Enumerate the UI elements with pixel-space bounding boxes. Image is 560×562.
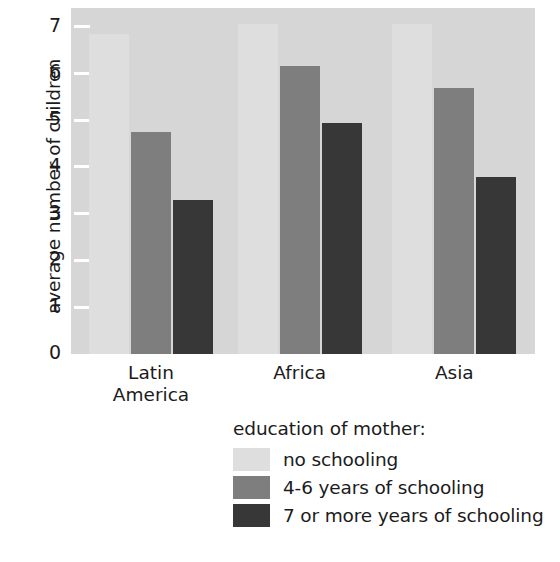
bar (434, 88, 474, 355)
bar-chart-figure: average number of children 01234567 Lati… (0, 0, 560, 562)
legend-swatch (233, 504, 270, 527)
y-axis-tick-label: 4 (23, 156, 61, 175)
x-axis-category: Africa (215, 362, 385, 384)
x-axis-category-label: Asia (435, 362, 474, 383)
y-axis-tick-label: 7 (23, 16, 61, 35)
legend-item: 7 or more years of schooling (233, 502, 560, 528)
legend-swatch (233, 448, 270, 471)
y-axis-tick (74, 119, 90, 122)
x-axis-category: LatinAmerica (66, 362, 236, 406)
legend: education of mother: no schooling4-6 yea… (233, 418, 560, 530)
y-axis-tick-label: 6 (23, 62, 61, 81)
y-axis-tick-label: 5 (23, 109, 61, 128)
y-axis-tick (74, 212, 90, 215)
bar (173, 200, 213, 354)
legend-label: no schooling (283, 449, 398, 470)
y-axis-tick (74, 165, 90, 168)
x-axis-category: Asia (369, 362, 539, 384)
bar (392, 24, 432, 354)
x-axis-category-label: Africa (273, 362, 326, 383)
plot-area (71, 8, 535, 354)
y-axis-tick-label: 1 (23, 296, 61, 315)
legend-rows: no schooling4-6 years of schooling7 or m… (233, 446, 560, 528)
legend-item: 4-6 years of schooling (233, 474, 560, 500)
x-axis-category-label-line2: America (66, 384, 236, 406)
y-axis-tick (74, 306, 90, 309)
bar (131, 132, 171, 354)
y-axis-tick (74, 259, 90, 262)
x-axis-category-label: Latin (128, 362, 174, 383)
y-axis-tick (74, 25, 90, 28)
y-axis-tick-label: 3 (23, 203, 61, 222)
bar (280, 66, 320, 354)
plot-inner (71, 8, 535, 354)
legend-swatch (233, 476, 270, 499)
y-axis-tick-label: 2 (23, 249, 61, 268)
legend-title: education of mother: (233, 418, 560, 439)
legend-label: 7 or more years of schooling (283, 505, 543, 526)
bar (238, 24, 278, 354)
legend-item: no schooling (233, 446, 560, 472)
y-axis-tick-label: 0 (23, 343, 61, 362)
bar (476, 177, 516, 354)
bar (322, 123, 362, 354)
y-axis-tick (74, 72, 90, 75)
legend-label: 4-6 years of schooling (283, 477, 484, 498)
bar (89, 34, 129, 354)
